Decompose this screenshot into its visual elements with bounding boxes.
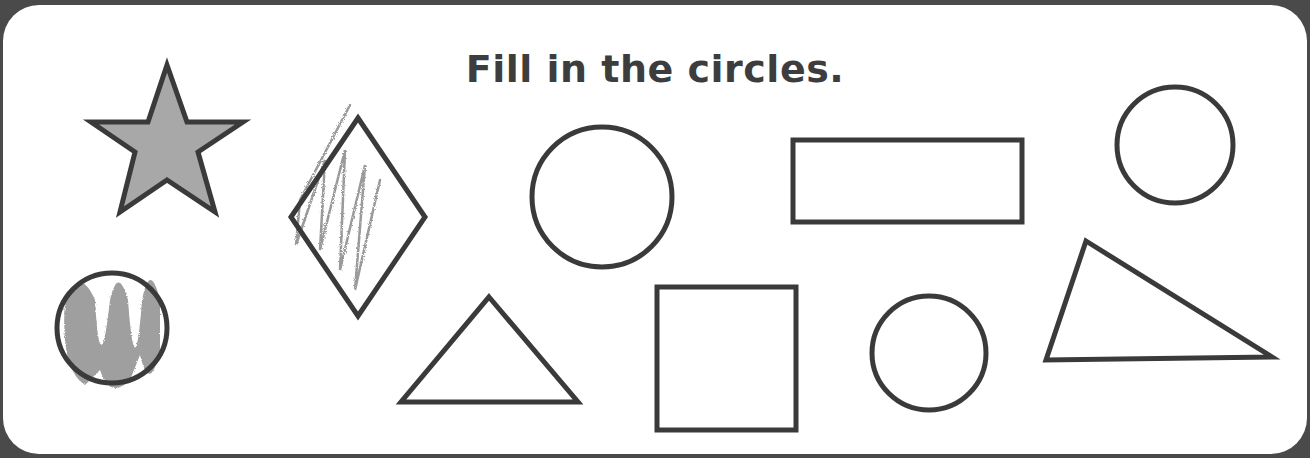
- diamond-shape-scribbled[interactable]: [291, 105, 425, 316]
- shapes-canvas: [0, 0, 1310, 458]
- square-shape[interactable]: [657, 287, 796, 430]
- rectangle-shape[interactable]: [793, 140, 1022, 222]
- circle-shape-small[interactable]: [872, 296, 986, 410]
- triangle-shape-scalene[interactable]: [1046, 241, 1272, 360]
- star-shape-colored[interactable]: [91, 65, 243, 212]
- circle-shape-colored[interactable]: [57, 273, 167, 388]
- circle-shape-top-right[interactable]: [1117, 87, 1233, 203]
- triangle-shape-isosceles[interactable]: [401, 297, 578, 402]
- circle-shape-large[interactable]: [532, 127, 672, 267]
